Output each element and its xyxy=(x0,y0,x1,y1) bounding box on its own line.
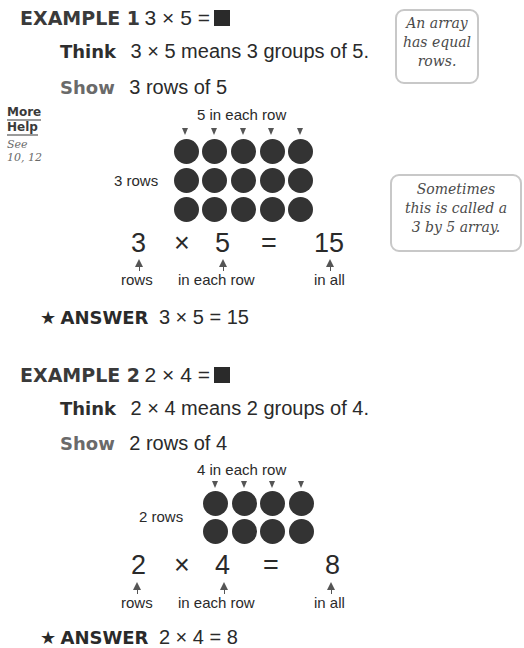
top-caption-1: 5 in each row xyxy=(197,106,286,123)
counter-dot xyxy=(231,168,256,193)
counter-dot xyxy=(232,491,257,516)
think-label: Think xyxy=(60,398,116,419)
counter-dot xyxy=(202,197,227,222)
caption-in-each-row: in each row xyxy=(178,271,255,288)
counter-dot xyxy=(232,519,257,544)
times-sign: × xyxy=(174,228,190,259)
counter-dot xyxy=(203,491,228,516)
arrow-down-icon xyxy=(211,128,217,135)
counter-dot xyxy=(289,519,314,544)
think-text: 2 × 4 means 2 groups of 4. xyxy=(131,397,370,419)
example-1-think: Think 3 × 5 means 3 groups of 5. xyxy=(60,40,369,63)
product: 15 xyxy=(314,228,344,259)
example-1-header: EXAMPLE 1 3 × 5 = xyxy=(20,6,230,30)
example-1-label: EXAMPLE 1 xyxy=(20,7,140,29)
arrow-down-icon xyxy=(269,481,275,488)
show-label: Show xyxy=(60,433,115,454)
counter-dot xyxy=(288,139,313,164)
factor-rows: 3 xyxy=(131,228,146,259)
note-line: An array xyxy=(397,14,477,33)
counter-dot xyxy=(174,139,199,164)
arrow-down-icon xyxy=(268,128,274,135)
more-help-line2: Help xyxy=(7,121,38,136)
counter-dot xyxy=(288,168,313,193)
factor-per-row: 4 xyxy=(215,550,230,581)
arrow-down-icon xyxy=(297,128,303,135)
show-label: Show xyxy=(60,77,115,98)
caption-rows: rows xyxy=(121,594,153,611)
unknown-square-icon xyxy=(214,367,230,383)
caption-in-all: in all xyxy=(314,594,345,611)
arrow-down-icon xyxy=(240,128,246,135)
product: 8 xyxy=(325,550,340,581)
counter-dot xyxy=(260,139,285,164)
answer-text: 3 × 5 = 15 xyxy=(159,306,249,328)
unknown-square-icon xyxy=(214,10,230,26)
arrow-down-icon xyxy=(182,128,188,135)
caption-in-all: in all xyxy=(314,271,345,288)
counter-dot xyxy=(260,197,285,222)
example-2-show: Show 2 rows of 4 xyxy=(60,432,227,455)
side-caption-1: 3 rows xyxy=(114,172,158,189)
note-3-by-5-array: Sometimes this is called a 3 by 5 array. xyxy=(390,174,522,252)
equals-sign: = xyxy=(261,228,277,259)
times-sign: × xyxy=(174,550,190,581)
star-icon: ★ xyxy=(40,628,56,648)
answer-text: 2 × 4 = 8 xyxy=(159,626,238,648)
star-icon: ★ xyxy=(40,308,56,328)
example-1-show: Show 3 rows of 5 xyxy=(60,76,227,99)
counter-dot xyxy=(174,168,199,193)
counter-dot xyxy=(231,139,256,164)
factor-rows: 2 xyxy=(131,550,146,581)
more-help-link[interactable]: More Help See 10, 12 xyxy=(7,106,42,164)
note-line: 3 by 5 array. xyxy=(392,218,520,237)
counter-dot xyxy=(289,491,314,516)
note-line: rows. xyxy=(397,52,477,71)
think-label: Think xyxy=(60,41,116,62)
see-pages: 10, 12 xyxy=(7,151,42,164)
counter-dot xyxy=(202,139,227,164)
note-line: Sometimes xyxy=(392,180,520,199)
answer-2: ★ ANSWER 2 × 4 = 8 xyxy=(40,626,238,648)
arrow-down-icon xyxy=(212,481,218,488)
example-2-header: EXAMPLE 2 2 × 4 = xyxy=(20,363,230,387)
note-line: has equal xyxy=(397,33,477,52)
equals-sign: = xyxy=(263,550,279,581)
example-2-think: Think 2 × 4 means 2 groups of 4. xyxy=(60,397,369,420)
answer-label: ANSWER xyxy=(60,627,148,648)
show-text: 2 rows of 4 xyxy=(129,432,227,454)
example-2-equation: 2 × 4 = xyxy=(145,363,210,386)
arrow-down-icon xyxy=(241,481,247,488)
note-array-equal-rows: An array has equal rows. xyxy=(395,9,479,84)
arrow-down-icon xyxy=(298,481,304,488)
factor-per-row: 5 xyxy=(215,228,230,259)
think-text: 3 × 5 means 3 groups of 5. xyxy=(131,40,370,62)
caption-rows: rows xyxy=(121,271,153,288)
counter-dot xyxy=(203,519,228,544)
top-caption-2: 4 in each row xyxy=(197,461,286,478)
answer-1: ★ ANSWER 3 × 5 = 15 xyxy=(40,306,249,329)
answer-label: ANSWER xyxy=(60,307,148,328)
example-2-label: EXAMPLE 2 xyxy=(20,364,140,386)
see-label: See xyxy=(7,138,42,151)
show-text: 3 rows of 5 xyxy=(129,76,227,98)
more-help-line1: More xyxy=(7,106,41,121)
example-1-equation: 3 × 5 = xyxy=(145,6,210,29)
counter-dot xyxy=(260,168,285,193)
counter-dot xyxy=(288,197,313,222)
counter-dot xyxy=(260,519,285,544)
caption-in-each-row: in each row xyxy=(178,594,255,611)
counter-dot xyxy=(260,491,285,516)
counter-dot xyxy=(174,197,199,222)
side-caption-2: 2 rows xyxy=(139,508,183,525)
note-line: this is called a xyxy=(392,199,520,218)
counter-dot xyxy=(202,168,227,193)
counter-dot xyxy=(231,197,256,222)
